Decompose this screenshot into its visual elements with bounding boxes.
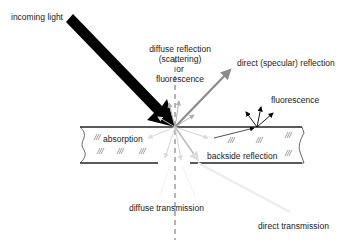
- label-diffuse-reflection-line3: or: [140, 64, 220, 74]
- label-direct-transmission: direct transmission: [258, 221, 329, 231]
- label-diffuse-reflection-line4: fluorescence: [140, 74, 220, 84]
- direct-transmission-line: [198, 163, 290, 212]
- diffuse-transmission-arrows: [160, 165, 195, 196]
- label-absorption: absorption: [103, 134, 143, 144]
- fluorescence-arrows: [246, 107, 273, 127]
- light-interaction-diagram: incoming light diffuse reflection (scatt…: [0, 0, 344, 248]
- label-fluorescence: fluorescence: [271, 95, 319, 105]
- label-incoming-light: incoming light: [11, 12, 63, 22]
- label-diffuse-reflection-line2: (scattering): [140, 54, 220, 64]
- label-backside-reflection: backside reflection: [207, 151, 277, 161]
- label-diffuse-reflection-line1: diffuse reflection: [140, 44, 220, 54]
- label-direct-reflection: direct (specular) reflection: [237, 58, 335, 68]
- label-diffuse-reflection: diffuse reflection (scattering) or fluor…: [140, 44, 220, 84]
- label-diffuse-transmission: diffuse transmission: [129, 203, 204, 213]
